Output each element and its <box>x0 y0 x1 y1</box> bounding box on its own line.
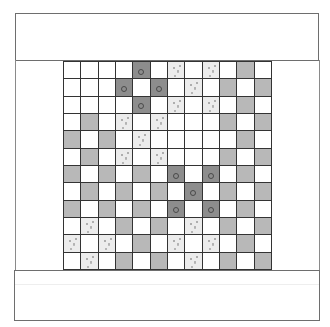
board-cell-11-6[interactable] <box>168 253 184 269</box>
board-cell-2-2[interactable] <box>99 97 115 113</box>
board-cell-10-5[interactable] <box>151 235 167 251</box>
board-cell-1-8[interactable] <box>203 79 219 95</box>
board-cell-7-4[interactable] <box>133 183 149 199</box>
board-cell-2-3[interactable] <box>116 97 132 113</box>
board-cell-11-11[interactable] <box>255 253 271 269</box>
board-cell-0-1[interactable] <box>81 62 97 78</box>
board-cell-6-8[interactable] <box>203 166 219 182</box>
board-cell-0-5[interactable] <box>151 62 167 78</box>
board-cell-2-5[interactable] <box>151 97 167 113</box>
board-cell-4-1[interactable] <box>81 131 97 147</box>
board-cell-8-2[interactable] <box>99 201 115 217</box>
board-cell-10-8[interactable] <box>203 235 219 251</box>
board-cell-5-5[interactable] <box>151 149 167 165</box>
board-cell-4-2[interactable] <box>99 131 115 147</box>
board-cell-11-0[interactable] <box>64 253 80 269</box>
board-cell-11-2[interactable] <box>99 253 115 269</box>
board-cell-4-9[interactable] <box>220 131 236 147</box>
board-cell-1-5[interactable] <box>151 79 167 95</box>
board-cell-11-4[interactable] <box>133 253 149 269</box>
board-cell-8-0[interactable] <box>64 201 80 217</box>
board-cell-8-3[interactable] <box>116 201 132 217</box>
board-cell-4-11[interactable] <box>255 131 271 147</box>
board-cell-5-3[interactable] <box>116 149 132 165</box>
board-cell-6-0[interactable] <box>64 166 80 182</box>
board-cell-2-7[interactable] <box>185 97 201 113</box>
board-cell-11-5[interactable] <box>151 253 167 269</box>
board-cell-8-9[interactable] <box>220 201 236 217</box>
board-cell-3-4[interactable] <box>133 114 149 130</box>
board-cell-4-3[interactable] <box>116 131 132 147</box>
board-cell-3-6[interactable] <box>168 114 184 130</box>
board-cell-3-2[interactable] <box>99 114 115 130</box>
board-cell-3-11[interactable] <box>255 114 271 130</box>
board-cell-9-1[interactable] <box>81 218 97 234</box>
game-board[interactable] <box>63 61 272 270</box>
board-cell-3-10[interactable] <box>237 114 253 130</box>
board-cell-8-10[interactable] <box>237 201 253 217</box>
board-cell-10-7[interactable] <box>185 235 201 251</box>
board-cell-6-7[interactable] <box>185 166 201 182</box>
board-cell-9-7[interactable] <box>185 218 201 234</box>
board-cell-11-10[interactable] <box>237 253 253 269</box>
board-cell-2-10[interactable] <box>237 97 253 113</box>
board-cell-3-8[interactable] <box>203 114 219 130</box>
board-cell-1-10[interactable] <box>237 79 253 95</box>
board-cell-4-0[interactable] <box>64 131 80 147</box>
board-cell-0-11[interactable] <box>255 62 271 78</box>
board-cell-11-9[interactable] <box>220 253 236 269</box>
board-cell-3-5[interactable] <box>151 114 167 130</box>
board-cell-8-8[interactable] <box>203 201 219 217</box>
board-cell-7-9[interactable] <box>220 183 236 199</box>
board-cell-4-8[interactable] <box>203 131 219 147</box>
board-cell-2-6[interactable] <box>168 97 184 113</box>
board-cell-0-10[interactable] <box>237 62 253 78</box>
board-cell-10-6[interactable] <box>168 235 184 251</box>
board-cell-5-1[interactable] <box>81 149 97 165</box>
board-cell-8-7[interactable] <box>185 201 201 217</box>
board-cell-10-10[interactable] <box>237 235 253 251</box>
board-cell-1-2[interactable] <box>99 79 115 95</box>
board-cell-9-11[interactable] <box>255 218 271 234</box>
board-cell-9-8[interactable] <box>203 218 219 234</box>
board-cell-7-2[interactable] <box>99 183 115 199</box>
board-cell-2-8[interactable] <box>203 97 219 113</box>
board-cell-11-8[interactable] <box>203 253 219 269</box>
board-cell-7-11[interactable] <box>255 183 271 199</box>
board-cell-11-1[interactable] <box>81 253 97 269</box>
board-cell-2-0[interactable] <box>64 97 80 113</box>
board-cell-10-11[interactable] <box>255 235 271 251</box>
board-cell-3-3[interactable] <box>116 114 132 130</box>
board-cell-6-10[interactable] <box>237 166 253 182</box>
board-cell-0-3[interactable] <box>116 62 132 78</box>
board-cell-9-3[interactable] <box>116 218 132 234</box>
board-cell-5-4[interactable] <box>133 149 149 165</box>
board-cell-6-6[interactable] <box>168 166 184 182</box>
board-cell-1-11[interactable] <box>255 79 271 95</box>
board-cell-6-2[interactable] <box>99 166 115 182</box>
board-cell-8-1[interactable] <box>81 201 97 217</box>
board-cell-4-7[interactable] <box>185 131 201 147</box>
board-cell-5-10[interactable] <box>237 149 253 165</box>
board-cell-9-0[interactable] <box>64 218 80 234</box>
board-cell-6-4[interactable] <box>133 166 149 182</box>
board-cell-0-7[interactable] <box>185 62 201 78</box>
board-cell-6-5[interactable] <box>151 166 167 182</box>
board-cell-1-6[interactable] <box>168 79 184 95</box>
board-cell-5-6[interactable] <box>168 149 184 165</box>
board-cell-2-9[interactable] <box>220 97 236 113</box>
board-cell-5-8[interactable] <box>203 149 219 165</box>
board-cell-3-7[interactable] <box>185 114 201 130</box>
board-cell-9-4[interactable] <box>133 218 149 234</box>
board-cell-1-4[interactable] <box>133 79 149 95</box>
board-cell-11-7[interactable] <box>185 253 201 269</box>
board-cell-4-6[interactable] <box>168 131 184 147</box>
board-cell-6-9[interactable] <box>220 166 236 182</box>
board-cell-0-0[interactable] <box>64 62 80 78</box>
board-cell-10-1[interactable] <box>81 235 97 251</box>
board-cell-5-9[interactable] <box>220 149 236 165</box>
board-cell-7-10[interactable] <box>237 183 253 199</box>
board-cell-7-5[interactable] <box>151 183 167 199</box>
board-cell-9-2[interactable] <box>99 218 115 234</box>
board-cell-0-8[interactable] <box>203 62 219 78</box>
